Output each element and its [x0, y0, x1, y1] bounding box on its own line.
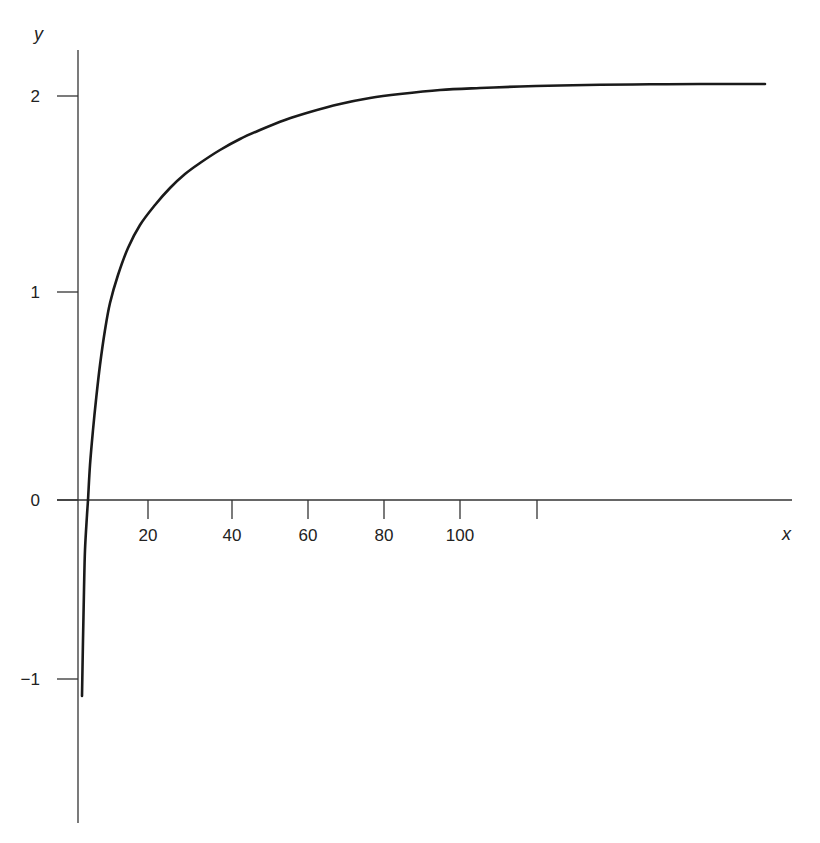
y-tick-label: 1: [31, 283, 40, 302]
x-tick-label: 40: [223, 526, 242, 545]
x-axis-label: x: [781, 524, 792, 544]
x-tick-label: 80: [375, 526, 394, 545]
x-tick-label: 20: [139, 526, 158, 545]
y-ticks: 210−1: [21, 87, 78, 689]
x-tick-label: 60: [299, 526, 318, 545]
x-ticks: 20406080100: [139, 500, 537, 545]
data-curve: [82, 84, 765, 696]
y-tick-label: 0: [31, 491, 40, 510]
x-tick-label: 100: [446, 526, 474, 545]
y-tick-label: −1: [21, 670, 40, 689]
y-tick-label: 2: [31, 87, 40, 106]
chart: 210−1 20406080100 y x: [0, 0, 820, 843]
y-axis-label: y: [32, 24, 44, 44]
